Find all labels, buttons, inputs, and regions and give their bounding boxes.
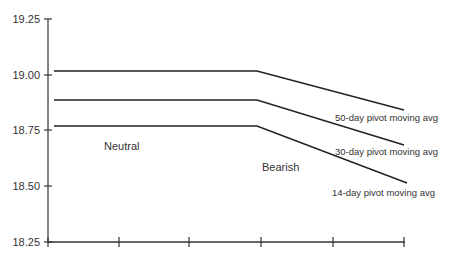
y-tick-label: 19.25: [12, 13, 40, 25]
region-label-bearish: Bearish: [262, 161, 299, 173]
y-tick-label: 18.25: [12, 236, 40, 248]
series-label-30-day: 30-day pivot moving avg: [335, 146, 438, 157]
series-label-14-day: 14-day pivot moving avg: [332, 187, 435, 198]
chart-canvas: 19.25 19.00 18.75 18.50 18.25 50-day piv…: [0, 0, 449, 264]
y-tick-label: 18.50: [12, 180, 40, 192]
series-label-50-day: 50-day pivot moving avg: [335, 112, 438, 123]
series-line-50-day: [54, 71, 404, 110]
region-label-neutral: Neutral: [104, 140, 139, 152]
y-tick-label: 18.75: [12, 124, 40, 136]
y-tick-labels: 19.25 19.00 18.75 18.50 18.25: [12, 13, 40, 248]
y-tick-label: 19.00: [12, 69, 40, 81]
